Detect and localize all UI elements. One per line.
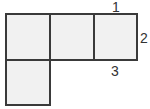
square-top-left [5, 13, 51, 61]
square-top-right [93, 13, 138, 61]
square-top-middle [49, 13, 95, 61]
label-top-edge: 1 [112, 0, 120, 14]
label-right-edge: 2 [140, 31, 148, 45]
square-bottom-left [5, 59, 51, 106]
label-bottom-edge: 3 [111, 64, 119, 78]
